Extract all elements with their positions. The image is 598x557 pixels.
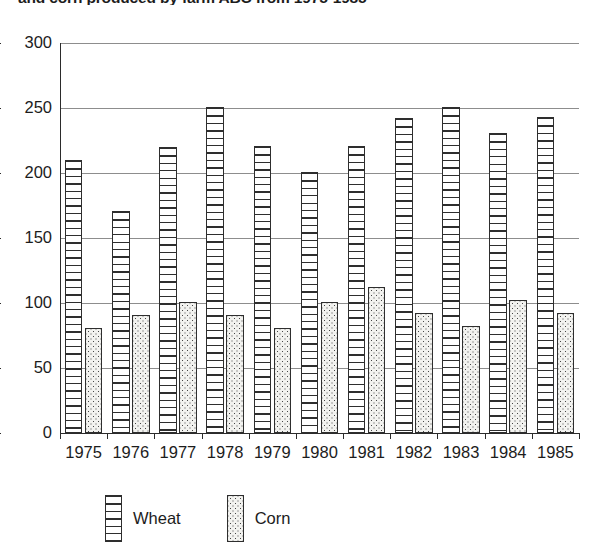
- bar-chart: and corn produced by farm ABC from 1975-…: [0, 0, 598, 557]
- bar-corn-1983: [462, 326, 480, 433]
- x-tick-1980: [296, 433, 297, 439]
- x-tick-1979: [249, 433, 250, 439]
- x-axis-labels: 1975197619771978197919801981198219831984…: [60, 443, 579, 469]
- y-tick-100: [0, 303, 1, 304]
- x-tick-end: [579, 433, 580, 439]
- x-axis-label-1981: 1981: [343, 443, 390, 462]
- y-axis-line: [60, 43, 61, 434]
- bar-corn-1982: [415, 313, 433, 433]
- bar-wheat-1982: [395, 118, 413, 433]
- x-axis-label-1980: 1980: [296, 443, 343, 462]
- y-tick-0: [0, 433, 1, 434]
- x-axis-label-1983: 1983: [437, 443, 484, 462]
- bar-wheat-1985: [537, 117, 555, 433]
- legend-label-wheat: Wheat: [133, 509, 181, 528]
- y-tick-150: [0, 238, 1, 239]
- bar-wheat-1976: [112, 211, 130, 433]
- y-tick-250: [0, 108, 1, 109]
- x-axis-label-1979: 1979: [249, 443, 296, 462]
- bar-corn-1985: [557, 313, 575, 433]
- bar-wheat-1980: [301, 172, 319, 433]
- gridline-300: [60, 43, 579, 44]
- bar-corn-1984: [509, 300, 527, 433]
- bar-wheat-1981: [348, 146, 366, 433]
- y-tick-label: 100: [6, 293, 52, 312]
- y-tick-label: 50: [6, 358, 52, 377]
- bar-corn-1976: [132, 315, 150, 433]
- legend-entry-wheat: Wheat: [105, 495, 181, 542]
- bar-wheat-1977: [159, 147, 177, 433]
- x-tick-1977: [154, 433, 155, 439]
- y-tick-50: [0, 368, 1, 369]
- y-tick-label: 150: [6, 228, 52, 247]
- x-axis-label-1982: 1982: [390, 443, 437, 462]
- y-tick-label: 0: [6, 423, 52, 442]
- bar-wheat-1975: [65, 160, 83, 433]
- x-axis-label-1976: 1976: [107, 443, 154, 462]
- chart-legend: Wheat Corn: [105, 488, 290, 548]
- bar-corn-1975: [85, 328, 103, 433]
- bar-corn-1977: [179, 302, 197, 433]
- x-tick-1975: [60, 433, 61, 439]
- plot-area: [60, 43, 579, 433]
- bar-corn-1980: [321, 302, 339, 433]
- x-axis-label-1977: 1977: [154, 443, 201, 462]
- bar-wheat-1983: [442, 107, 460, 433]
- bar-corn-1978: [226, 315, 244, 433]
- x-tick-1984: [485, 433, 486, 439]
- bar-wheat-1978: [206, 107, 224, 433]
- y-tick-label: 300: [6, 33, 52, 52]
- x-tick-1983: [437, 433, 438, 439]
- y-tick-300: [0, 43, 1, 44]
- y-tick-label: 200: [6, 163, 52, 182]
- x-tick-1978: [202, 433, 203, 439]
- y-tick-200: [0, 173, 1, 174]
- x-tick-1982: [390, 433, 391, 439]
- x-tick-1985: [532, 433, 533, 439]
- gridline-250: [60, 108, 579, 109]
- bar-corn-1979: [274, 328, 292, 433]
- legend-label-corn: Corn: [255, 509, 291, 528]
- x-axis-label-1984: 1984: [485, 443, 532, 462]
- legend-entry-corn: Corn: [227, 495, 291, 542]
- chart-title: and corn produced by farm ABC from 1975-…: [18, 0, 588, 5]
- x-tick-1981: [343, 433, 344, 439]
- wheat-swatch-icon: [105, 495, 122, 542]
- x-axis-label-1978: 1978: [202, 443, 249, 462]
- x-axis-label-1985: 1985: [532, 443, 579, 462]
- x-tick-1976: [107, 433, 108, 439]
- x-axis-label-1975: 1975: [60, 443, 107, 462]
- bar-wheat-1984: [489, 133, 507, 433]
- corn-swatch-icon: [227, 495, 244, 542]
- bar-wheat-1979: [254, 146, 272, 433]
- y-tick-label: 250: [6, 98, 52, 117]
- x-axis-ticks: [60, 433, 579, 441]
- y-axis-labels: 050100150200250300: [0, 43, 52, 434]
- bar-corn-1981: [368, 287, 386, 433]
